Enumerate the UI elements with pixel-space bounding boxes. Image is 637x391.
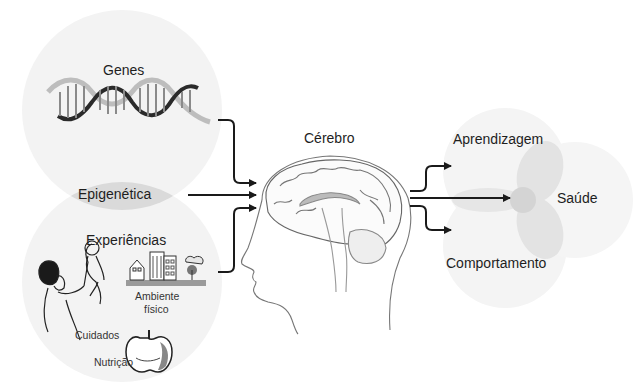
arrow-brain-to-behavior xyxy=(410,206,451,230)
label-behavior: Comportamento xyxy=(446,255,546,271)
label-experiences: Experiências xyxy=(86,232,166,248)
head-brain-icon xyxy=(241,156,410,334)
label-learning: Aprendizagem xyxy=(453,131,543,147)
label-brain: Cérebro xyxy=(304,130,355,146)
label-epigenetics: Epigenética xyxy=(78,186,151,202)
diagram-canvas: Genes Epigenética Experiências Ambiente … xyxy=(0,0,637,391)
label-health: Saúde xyxy=(557,190,597,206)
label-care: Cuidados xyxy=(75,329,119,341)
label-nutrition: Nutrição xyxy=(94,356,133,368)
label-physical-environment-line2: físico xyxy=(144,303,169,315)
arrow-genes-to-brain xyxy=(218,120,256,183)
label-genes: Genes xyxy=(103,62,144,78)
label-physical-environment-line1: Ambiente xyxy=(135,290,179,302)
